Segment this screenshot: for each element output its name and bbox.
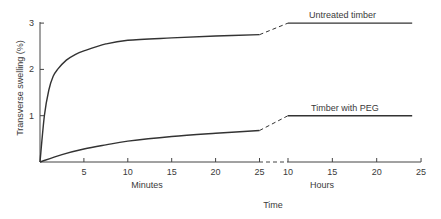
- y-tick-label: 2: [29, 64, 34, 74]
- x-tick-label-minutes: 5: [81, 167, 86, 177]
- x-axis-time-title: Time: [263, 200, 283, 210]
- x-tick-label-minutes: 15: [167, 167, 177, 177]
- series-untreated-break: [260, 23, 289, 35]
- series-peg-break: [260, 116, 289, 131]
- series-lines: [40, 23, 412, 162]
- x-tick-label-minutes: 10: [123, 167, 133, 177]
- series-peg-minutes: [40, 131, 260, 162]
- series-label-peg: Timber with PEG: [311, 103, 379, 113]
- series-untreated-minutes: [40, 35, 260, 162]
- chart-svg: 123 Transverse swelling (%) 510152025101…: [0, 0, 441, 219]
- y-axis-title: Transverse swelling (%): [15, 40, 25, 136]
- x-ticks: 51015202510152025: [81, 158, 426, 177]
- x-tick-label-minutes: 25: [254, 167, 264, 177]
- x-tick-label-hours: 10: [283, 167, 293, 177]
- x-tick-label-hours: 15: [327, 167, 337, 177]
- x-tick-label-hours: 25: [416, 167, 426, 177]
- x-axis-hours-title: Hours: [310, 180, 335, 190]
- y-ticks: 123: [29, 18, 44, 121]
- series-label-untreated: Untreated timber: [309, 10, 376, 20]
- x-axis-minutes-title: Minutes: [131, 180, 163, 190]
- x-tick-label-hours: 20: [372, 167, 382, 177]
- y-tick-label: 3: [29, 18, 34, 28]
- y-tick-label: 1: [29, 111, 34, 121]
- swelling-chart: 123 Transverse swelling (%) 510152025101…: [0, 0, 441, 219]
- x-tick-label-minutes: 20: [211, 167, 221, 177]
